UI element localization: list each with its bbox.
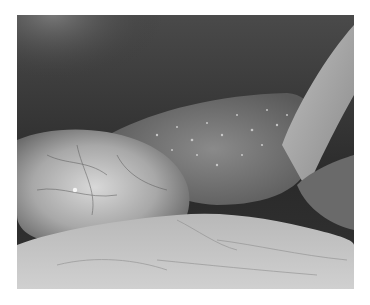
specular-highlight [73,188,77,192]
tissue-illustration [17,15,354,289]
endoscopic-photo [17,15,354,289]
